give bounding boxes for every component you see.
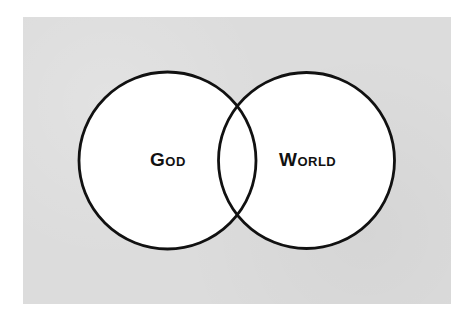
world-label: World: [279, 150, 336, 169]
god-label: God: [150, 150, 186, 169]
venn-diagram: [0, 0, 475, 315]
